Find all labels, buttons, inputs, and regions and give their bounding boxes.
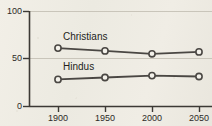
data-point-christians-1900 (55, 45, 61, 51)
data-point-hindus-2050 (196, 73, 202, 79)
y-tick-label-0: 0 (0, 101, 22, 111)
y-tick-label-100: 100 (0, 6, 22, 16)
x-tick-label-1950: 1950 (88, 113, 122, 123)
data-point-christians-2050 (196, 49, 202, 55)
data-point-hindus-1950 (102, 74, 108, 80)
series-line-christians (58, 48, 199, 54)
series-line-hindus (58, 76, 199, 80)
data-point-hindus-2000 (149, 73, 155, 79)
x-tick-label-2000: 2000 (135, 113, 169, 123)
y-tick-label-50: 50 (0, 53, 22, 63)
x-tick-label-2050: 2050 (182, 113, 212, 123)
data-point-hindus-1900 (55, 76, 61, 82)
data-point-christians-1950 (102, 48, 108, 54)
series-label-christians: Christians (63, 31, 107, 42)
line-chart-figure: 100 50 0 1900 1950 2000 2050 Christians … (0, 0, 212, 126)
data-point-christians-2000 (149, 51, 155, 57)
x-tick-label-1900: 1900 (41, 113, 75, 123)
series-label-hindus: Hindus (63, 61, 94, 72)
plot-area (0, 0, 212, 126)
